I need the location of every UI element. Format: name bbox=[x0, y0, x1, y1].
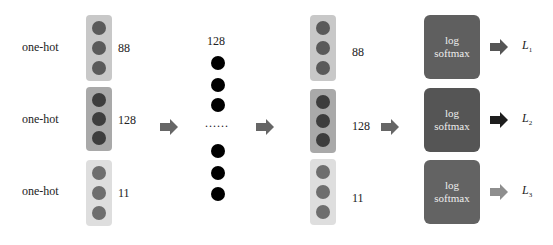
log-softmax-3: log softmax bbox=[424, 160, 480, 224]
arrow-right-icon bbox=[256, 119, 276, 135]
neuron bbox=[316, 95, 330, 109]
neuron bbox=[92, 61, 106, 75]
neuron bbox=[316, 165, 330, 179]
input-vector-1 bbox=[86, 15, 112, 81]
arrow-right-icon bbox=[490, 112, 510, 128]
hidden-dim: 128 bbox=[207, 34, 225, 49]
neuron bbox=[316, 205, 330, 219]
input-dim-1: 88 bbox=[118, 41, 130, 56]
loss-label-1: L1 bbox=[522, 38, 532, 54]
neuron bbox=[92, 166, 106, 180]
neuron bbox=[92, 131, 106, 145]
loss-subscript: 3 bbox=[529, 191, 533, 199]
input-label-1: one-hot bbox=[22, 40, 59, 55]
log-softmax-1: log softmax bbox=[424, 15, 480, 79]
hidden-neuron bbox=[211, 78, 225, 92]
neuron bbox=[316, 185, 330, 199]
loss-label-2: L2 bbox=[522, 111, 532, 127]
input-dim-3: 11 bbox=[118, 186, 130, 201]
neuron bbox=[92, 186, 106, 200]
neuron bbox=[92, 206, 106, 220]
neuron bbox=[316, 61, 330, 75]
output-dim-3: 11 bbox=[352, 191, 364, 206]
arrow-right-icon bbox=[490, 184, 510, 200]
neuron bbox=[316, 21, 330, 35]
log-softmax-line2: softmax bbox=[434, 120, 469, 133]
hidden-ellipsis: ...... bbox=[205, 116, 229, 131]
arrow-right-icon bbox=[381, 119, 401, 135]
input-dim-2: 128 bbox=[118, 113, 136, 128]
log-softmax-line1: log bbox=[445, 107, 459, 120]
neuron bbox=[92, 93, 106, 107]
output-dim-2: 128 bbox=[352, 119, 370, 134]
output-dim-1: 88 bbox=[352, 45, 364, 60]
input-vector-3 bbox=[86, 160, 112, 226]
hidden-neuron bbox=[211, 187, 225, 201]
loss-label-3: L3 bbox=[522, 183, 532, 199]
arrow-right-icon bbox=[490, 39, 510, 55]
input-label-2: one-hot bbox=[22, 112, 59, 127]
hidden-neuron bbox=[211, 144, 225, 158]
output-vector-1 bbox=[310, 15, 336, 81]
loss-subscript: 2 bbox=[529, 119, 533, 127]
hidden-neuron bbox=[211, 166, 225, 180]
output-vector-2 bbox=[310, 89, 336, 153]
neuron bbox=[92, 41, 106, 55]
neuron bbox=[316, 114, 330, 128]
neuron bbox=[92, 112, 106, 126]
log-softmax-line2: softmax bbox=[434, 192, 469, 205]
output-vector-3 bbox=[310, 159, 336, 225]
log-softmax-line1: log bbox=[445, 34, 459, 47]
loss-symbol: L bbox=[522, 111, 529, 125]
hidden-neuron bbox=[211, 98, 225, 112]
log-softmax-line1: log bbox=[445, 179, 459, 192]
log-softmax-line2: softmax bbox=[434, 47, 469, 60]
input-vector-2 bbox=[86, 87, 112, 151]
loss-symbol: L bbox=[522, 183, 529, 197]
neuron bbox=[316, 41, 330, 55]
neuron bbox=[316, 133, 330, 147]
loss-symbol: L bbox=[522, 38, 529, 52]
hidden-neuron bbox=[211, 56, 225, 70]
neuron bbox=[92, 21, 106, 35]
arrow-right-icon bbox=[160, 119, 180, 135]
loss-subscript: 1 bbox=[529, 46, 533, 54]
log-softmax-2: log softmax bbox=[424, 88, 480, 152]
input-label-3: one-hot bbox=[22, 184, 59, 199]
